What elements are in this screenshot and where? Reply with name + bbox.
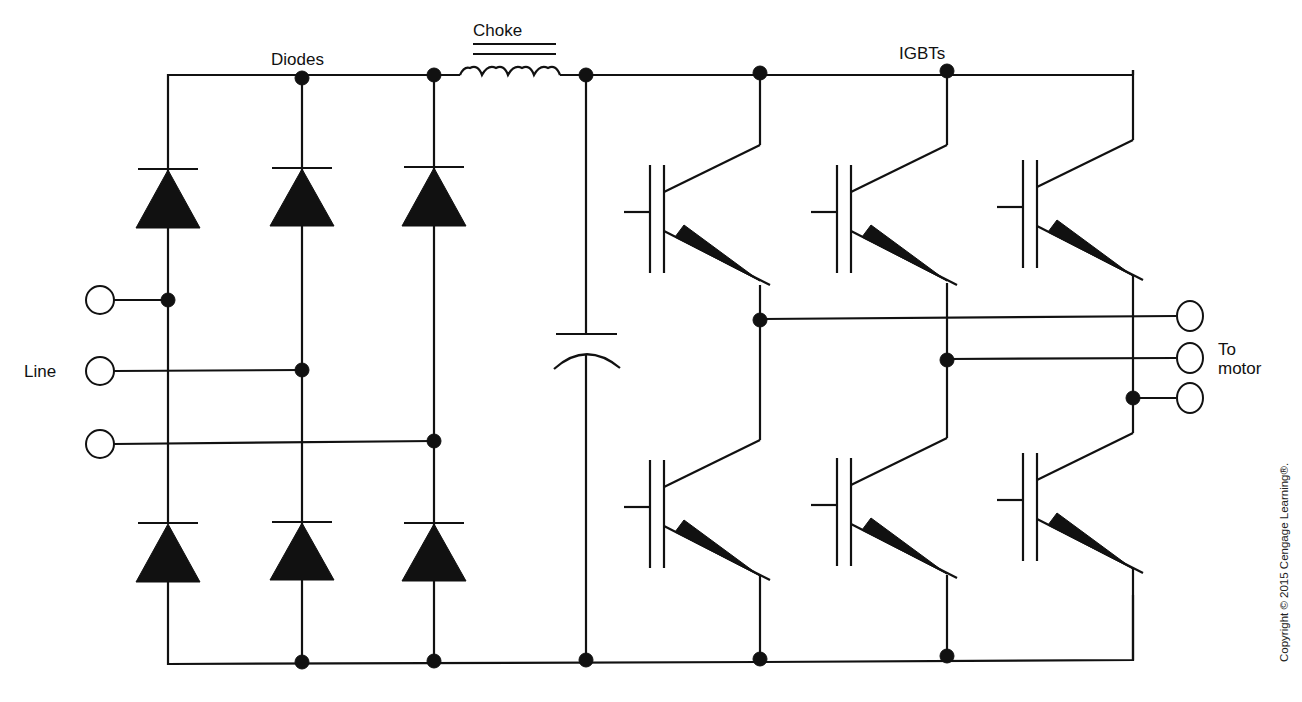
diodes-label: Diodes — [271, 50, 324, 69]
diode-icon — [270, 168, 334, 226]
motor-terminal-T3 — [1177, 383, 1203, 413]
line-input-terminals — [86, 286, 434, 458]
igbt-icon — [811, 438, 957, 578]
motor-terminal-T1 — [1177, 301, 1203, 331]
to-motor-label: To motor — [1218, 340, 1261, 378]
line-label: Line — [24, 362, 56, 381]
bottom-dc-bus — [168, 582, 1133, 664]
vfd-schematic — [0, 0, 1302, 702]
igbt-icon — [811, 145, 957, 285]
igbt-icon — [997, 140, 1143, 280]
diode-icon — [136, 523, 200, 582]
motor-terminal-T2 — [1177, 343, 1203, 373]
igbt-icon — [624, 145, 770, 285]
choke-inductor — [460, 67, 560, 75]
line-terminal-L2 — [86, 357, 114, 385]
diode-icon — [402, 523, 466, 581]
choke-label: Choke — [473, 21, 522, 40]
diode-icon — [136, 169, 200, 228]
to-motor-label-line1: To — [1218, 340, 1261, 359]
igbts-label: IGBTs — [899, 44, 945, 63]
copyright-notice: Copyright © 2015 Cengage Learning®. — [1278, 463, 1290, 662]
capacitor-icon — [554, 75, 620, 660]
diode-icon — [270, 522, 334, 580]
diode-icon — [402, 167, 466, 226]
to-motor-label-line2: motor — [1218, 359, 1261, 378]
igbt-icon — [624, 440, 770, 580]
line-terminal-L3 — [86, 430, 114, 458]
line-terminal-L1 — [86, 286, 114, 314]
igbt-icon — [997, 433, 1143, 573]
choke-core-lines — [473, 44, 556, 54]
